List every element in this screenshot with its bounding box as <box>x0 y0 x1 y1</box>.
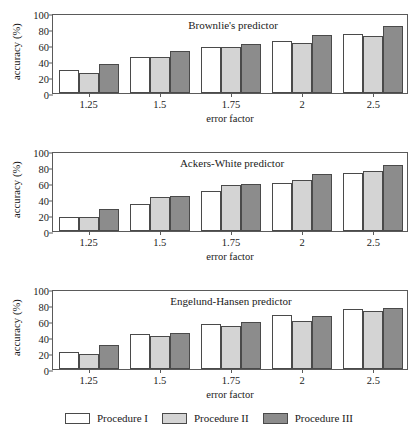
y-axis-tick-label: 60 <box>39 318 50 329</box>
bar <box>201 191 221 231</box>
bar <box>150 336 170 369</box>
x-axis-tick-label: 1.75 <box>222 375 240 386</box>
bar <box>59 217 79 231</box>
bar <box>130 334 150 369</box>
x-axis-label: error factor <box>53 251 407 262</box>
bar-group <box>53 153 124 231</box>
y-axis-tick-label: 40 <box>39 196 50 207</box>
legend-label: Procedure III <box>295 412 353 424</box>
bar <box>130 57 150 93</box>
bar <box>150 57 170 93</box>
x-axis-tick-mark <box>160 231 161 235</box>
bar <box>272 41 292 93</box>
bar <box>241 184 261 231</box>
bar-group <box>338 15 409 93</box>
bar <box>79 73 99 93</box>
x-axis-tick-mark <box>373 93 374 97</box>
x-axis-tick-label: 2.5 <box>367 99 380 110</box>
legend: Procedure IProcedure IIProcedure III <box>0 412 418 424</box>
x-axis-tick-mark <box>231 93 232 97</box>
x-axis-tick-mark <box>373 231 374 235</box>
plot-area-engelund-hansen: Engelund-Hansen predictor 0204060801001.… <box>52 290 408 370</box>
bar-group <box>267 15 338 93</box>
x-axis-tick-label: 1.25 <box>79 237 97 248</box>
bar <box>201 324 221 369</box>
bar <box>272 315 292 369</box>
y-axis-tick-mark <box>49 95 53 96</box>
bars-container: 0204060801001.251.51.7522.5 <box>53 15 407 93</box>
y-axis-tick-label: 60 <box>39 42 50 53</box>
bar <box>170 196 190 231</box>
bar <box>99 209 119 231</box>
legend-item: Procedure I <box>65 412 148 424</box>
x-axis-tick-mark <box>89 231 90 235</box>
x-axis-tick-mark <box>160 93 161 97</box>
bar <box>221 326 241 369</box>
x-axis-tick-label: 1.25 <box>79 99 97 110</box>
y-axis-tick-label: 80 <box>39 302 50 313</box>
y-axis-label: accuracy (%) <box>11 150 22 230</box>
bar <box>343 173 363 231</box>
bar <box>79 354 99 369</box>
legend-swatch <box>263 413 288 424</box>
figure-bar-chart-panels: accuracy (%) Brownlie's predictor 020406… <box>0 0 418 432</box>
legend-item: Procedure II <box>162 412 249 424</box>
x-axis-tick-mark <box>89 93 90 97</box>
x-axis-tick-mark <box>89 369 90 373</box>
legend-swatch <box>162 413 187 424</box>
bar-group <box>124 153 195 231</box>
x-axis-tick-mark <box>302 93 303 97</box>
bar <box>383 26 403 93</box>
bar <box>221 185 241 231</box>
bar-group <box>195 15 266 93</box>
bar <box>59 352 79 369</box>
bar <box>130 204 150 231</box>
x-axis-tick-label: 1.75 <box>222 237 240 248</box>
legend-item: Procedure III <box>263 412 353 424</box>
bar-group <box>53 291 124 369</box>
x-axis-tick-mark <box>373 369 374 373</box>
bar <box>241 44 261 93</box>
bar <box>292 321 312 369</box>
y-axis-tick-label: 20 <box>39 74 50 85</box>
x-axis-tick-mark <box>160 369 161 373</box>
y-axis-label: accuracy (%) <box>11 288 22 368</box>
bar <box>99 345 119 369</box>
bar <box>99 64 119 93</box>
x-axis-tick-label: 1.5 <box>153 99 166 110</box>
bar <box>312 35 332 93</box>
x-axis-tick-label: 2.5 <box>367 375 380 386</box>
bar <box>312 174 332 231</box>
y-axis-tick-label: 100 <box>33 286 49 297</box>
x-axis-tick-label: 1.5 <box>153 375 166 386</box>
x-axis-tick-label: 2 <box>300 375 305 386</box>
bars-container: 0204060801001.251.51.7522.5 <box>53 153 407 231</box>
bars-container: 0204060801001.251.51.7522.5 <box>53 291 407 369</box>
x-axis-tick-label: 2 <box>300 99 305 110</box>
plot-area-brownlie: Brownlie's predictor 0204060801001.251.5… <box>52 14 408 94</box>
bar-group <box>195 153 266 231</box>
y-axis-tick-mark <box>49 371 53 372</box>
y-axis-tick-label: 100 <box>33 148 49 159</box>
y-axis-label: accuracy (%) <box>11 12 22 92</box>
bar-group <box>195 291 266 369</box>
bar <box>201 47 221 93</box>
bar <box>363 171 383 231</box>
x-axis-tick-label: 1.75 <box>222 99 240 110</box>
bar <box>221 47 241 93</box>
bar <box>59 70 79 93</box>
y-axis-tick-mark <box>49 233 53 234</box>
bar <box>170 333 190 369</box>
bar <box>292 43 312 93</box>
bar <box>312 316 332 369</box>
legend-label: Procedure II <box>194 412 249 424</box>
bar-group <box>267 291 338 369</box>
legend-swatch <box>65 413 90 424</box>
legend-label: Procedure I <box>97 412 148 424</box>
bar <box>343 309 363 369</box>
plot-area-ackers-white: Ackers-White predictor 0204060801001.251… <box>52 152 408 232</box>
bar-group <box>124 15 195 93</box>
bar-group <box>338 291 409 369</box>
x-axis-tick-mark <box>302 231 303 235</box>
y-axis-tick-label: 80 <box>39 26 50 37</box>
